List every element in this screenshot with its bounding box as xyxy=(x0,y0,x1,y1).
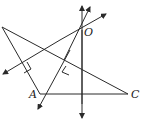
perpendicular-bc-arrow-down xyxy=(38,50,70,109)
geometry-diagram: O A C xyxy=(0,0,142,123)
label-C: C xyxy=(131,88,140,101)
right-angle-mark-right xyxy=(62,66,69,75)
label-O: O xyxy=(84,26,93,39)
diagram-canvas: O A C xyxy=(0,0,142,123)
label-A: A xyxy=(28,88,37,101)
perpendicular-ba-arrow-right xyxy=(60,14,106,40)
